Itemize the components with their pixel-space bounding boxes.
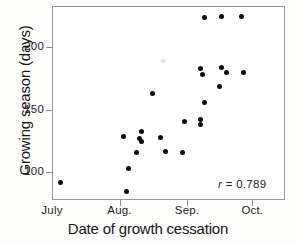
y-tick-mark — [46, 172, 53, 173]
data-point — [202, 15, 207, 20]
data-point — [202, 100, 207, 105]
x-tick-label: Sep. — [159, 204, 215, 216]
y-tick-label: 150 — [4, 103, 44, 115]
y-tick-label: 100 — [4, 165, 44, 177]
data-point — [239, 14, 244, 19]
x-tick-label: July — [24, 204, 80, 216]
data-point — [198, 66, 203, 71]
y-tick-label: 200 — [4, 40, 44, 52]
data-point — [224, 70, 229, 75]
data-point — [139, 129, 144, 134]
data-point — [163, 149, 168, 154]
correlation-annotation: r = 0.789 — [218, 178, 266, 190]
plot-frame — [52, 6, 285, 200]
y-tick-mark — [46, 47, 53, 48]
data-point — [150, 91, 155, 96]
paper-speck-artifact — [161, 59, 166, 63]
data-point — [126, 166, 131, 171]
x-tick-label: Aug. — [92, 204, 148, 216]
data-point — [219, 14, 224, 19]
correlation-value: = 0.789 — [222, 178, 266, 190]
scatter-plot-figure: Growing season (days) 100150200 JulyAug.… — [0, 0, 296, 243]
data-point — [217, 84, 222, 89]
y-tick-mark — [46, 110, 53, 111]
data-point — [139, 139, 144, 144]
x-tick-label: Oct. — [224, 204, 280, 216]
data-point — [124, 189, 129, 194]
data-point — [241, 70, 246, 75]
x-axis-title: Date of growth cessation — [0, 220, 296, 237]
